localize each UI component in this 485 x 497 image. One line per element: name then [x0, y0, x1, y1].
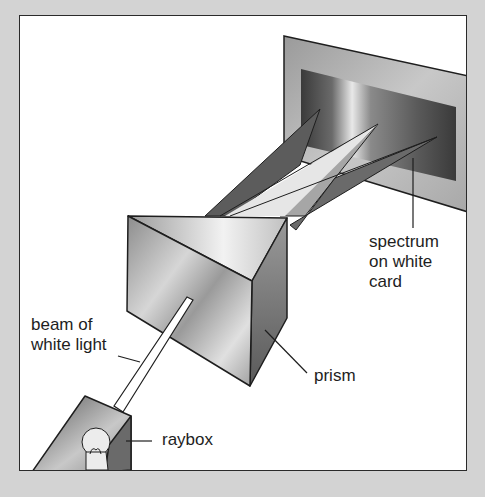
- label-spectrum-line3: card: [369, 272, 439, 292]
- label-raybox: raybox: [162, 430, 213, 450]
- label-spectrum-line2: on white: [369, 252, 439, 272]
- label-beam: beam of white light: [31, 315, 107, 355]
- label-beam-line1: beam of: [31, 315, 107, 335]
- label-spectrum: spectrum on white card: [369, 232, 439, 292]
- label-prism: prism: [314, 366, 356, 386]
- light-bulb-icon: [82, 428, 110, 470]
- label-spectrum-line1: spectrum: [369, 232, 439, 252]
- label-beam-line2: white light: [31, 335, 107, 355]
